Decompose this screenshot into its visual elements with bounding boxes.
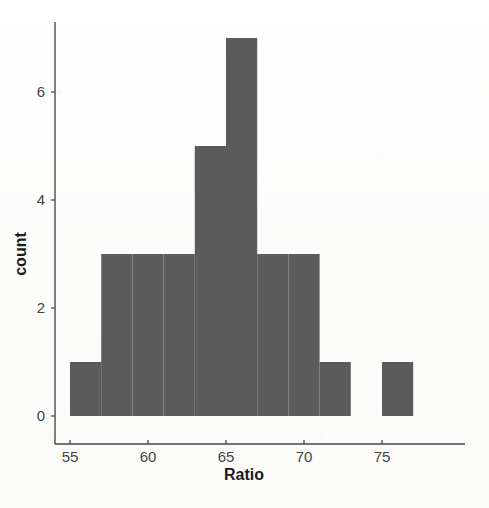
y-tick-label: 4	[37, 191, 45, 208]
x-axis-title: Ratio	[224, 466, 264, 483]
histogram-plot: 0246 5560657075 Ratio count	[0, 0, 489, 508]
histogram-bar	[226, 38, 257, 416]
y-tick-label: 6	[37, 83, 45, 100]
y-tick-label: 2	[37, 299, 45, 316]
histogram-bar	[101, 254, 132, 416]
x-tick-label: 60	[140, 448, 157, 465]
y-axis-ticks: 0246	[37, 83, 55, 424]
histogram-bar	[382, 362, 413, 416]
x-tick-label: 55	[62, 448, 79, 465]
x-tick-label: 75	[374, 448, 391, 465]
histogram-bar	[164, 254, 195, 416]
histogram-bar	[257, 254, 288, 416]
histogram-bar	[195, 146, 226, 416]
histogram-bar	[132, 254, 163, 416]
histogram-bar	[320, 362, 351, 416]
y-tick-label: 0	[37, 407, 45, 424]
histogram-bar	[288, 254, 319, 416]
x-tick-label: 65	[218, 448, 235, 465]
histogram-figure: 0246 5560657075 Ratio count	[0, 0, 489, 508]
y-axis-title: count	[12, 232, 29, 276]
histogram-bar	[70, 362, 101, 416]
histogram-bars	[70, 38, 413, 416]
x-tick-label: 70	[296, 448, 313, 465]
